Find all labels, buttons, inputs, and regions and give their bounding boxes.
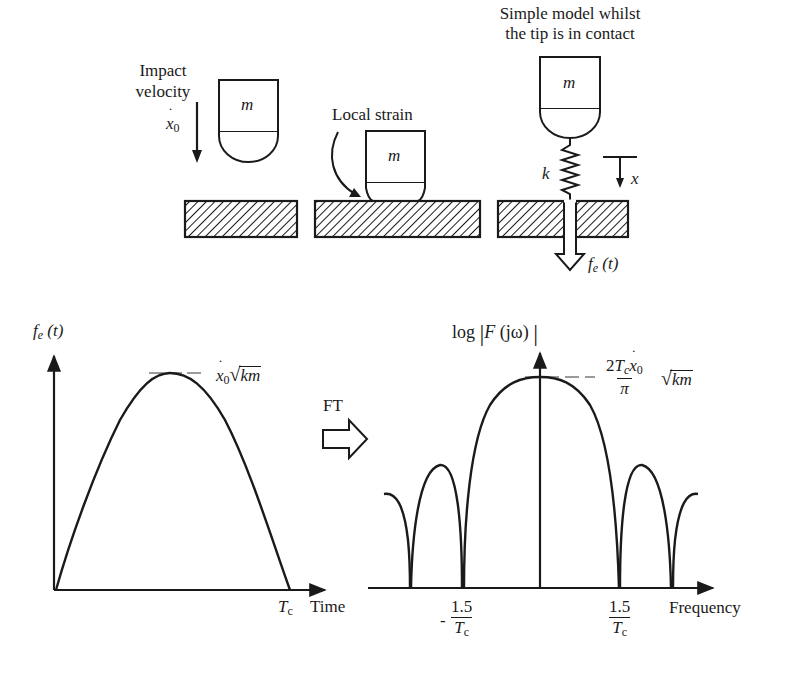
- frequency-chart-ylabel: log |F (jω) |: [452, 321, 538, 345]
- ground-slabs: [185, 201, 628, 237]
- time-chart-xtick-tc: Tc: [278, 598, 293, 617]
- impact-label-line2: velocity: [128, 81, 198, 102]
- time-chart-axes: [54, 356, 325, 590]
- spring-constant-label: k: [542, 165, 550, 182]
- tc-subscript: c: [622, 625, 627, 639]
- log-prefix: log: [452, 322, 475, 342]
- spring-model-title-line1: Simple model whilst: [490, 4, 650, 24]
- mass-block-2: [366, 131, 425, 201]
- ground-slab-2: [315, 201, 480, 237]
- peak-radicand: km: [670, 370, 693, 390]
- mass-label-3: m: [563, 74, 575, 91]
- time-domain-chart: [54, 356, 325, 590]
- time-peak-annotation: x0√km: [216, 364, 261, 386]
- peak-velocity-symbol: x: [216, 367, 224, 384]
- tc-subscript: c: [464, 625, 469, 639]
- stage2-local-strain: [332, 131, 425, 201]
- tick-denominator: Tc: [451, 617, 472, 639]
- curved-strain-arrow-icon: [332, 132, 361, 197]
- tick-numerator: 1.5: [607, 598, 632, 617]
- frequency-chart-xlabel: Frequency: [669, 599, 741, 616]
- velocity-symbol: x: [166, 115, 174, 132]
- fourier-transform-label: FT: [323, 397, 343, 414]
- x-symbol: x: [629, 357, 637, 375]
- tc-symbol: T: [615, 356, 624, 375]
- velocity-subscript: 0: [174, 121, 180, 135]
- contact-force-label: fe (t): [588, 255, 618, 274]
- frequency-peak-annotation-fraction: 2Tcx0 π: [604, 357, 645, 398]
- stage3-spring-model: [540, 57, 637, 201]
- frequency-peak-sqrt: √km: [661, 368, 693, 390]
- tc-symbol: T: [454, 618, 463, 637]
- velocity-arrow-icon: [192, 102, 202, 163]
- peak-velocity-subscript: 0: [224, 373, 230, 387]
- local-strain-label: Local strain: [332, 106, 413, 123]
- tc-symbol: T: [612, 618, 621, 637]
- impact-label-line1: Impact: [128, 60, 198, 81]
- spectrum-arg: (jω): [500, 322, 529, 342]
- frequency-xtick-negative: 1.5 Tc: [449, 598, 474, 639]
- abs-bar-right-icon: |: [533, 320, 538, 346]
- diagram-canvas: [0, 0, 785, 677]
- peak-fraction-numerator: 2Tcx0: [604, 357, 645, 378]
- fourier-transform-arrow-icon: [323, 420, 367, 458]
- ground-slab-1: [185, 201, 297, 237]
- displacement-label: x: [631, 170, 639, 187]
- neg-sign: -: [440, 612, 446, 629]
- tick-denominator: Tc: [609, 617, 630, 639]
- mass-block-3: [540, 57, 600, 138]
- peak-radicand: km: [239, 366, 262, 386]
- spring-icon: [562, 138, 578, 201]
- stage1-falling-mass: [192, 80, 278, 163]
- tc-subscript: c: [287, 604, 292, 618]
- mass-label-1: m: [241, 96, 253, 113]
- spring-model-title-line2: the tip is in contact: [490, 24, 650, 44]
- time-chart-ylabel: fe (t): [33, 322, 63, 341]
- force-argument: (t): [602, 254, 618, 273]
- time-chart-xlabel: Time: [310, 598, 345, 615]
- velocity-symbol-label: x0: [166, 115, 180, 134]
- peak-fraction-denominator: π: [617, 378, 632, 399]
- coef: 2: [606, 356, 615, 375]
- frequency-xtick-positive: 1.5 Tc: [607, 598, 632, 639]
- impact-velocity-label: Impact velocity: [128, 60, 198, 102]
- spring-model-title: Simple model whilst the tip is in contac…: [490, 4, 650, 44]
- mass-block-1: [219, 80, 278, 162]
- time-ylabel-subscript: e: [38, 328, 43, 342]
- tick-numerator: 1.5: [449, 598, 474, 617]
- half-sine-pulse-curve: [56, 373, 290, 590]
- spectrum-symbol: F: [484, 322, 495, 342]
- mass-label-2: m: [388, 147, 400, 164]
- force-subscript: e: [593, 261, 598, 275]
- x-subscript: 0: [637, 363, 643, 377]
- time-ylabel-arg: (t): [47, 321, 63, 340]
